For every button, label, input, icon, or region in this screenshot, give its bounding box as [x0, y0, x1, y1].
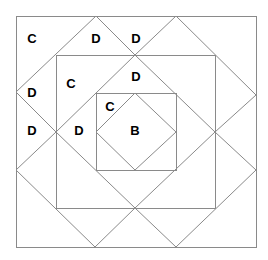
outer-edge-bot-left-in — [95, 208, 135, 247]
piece-label-d: D — [74, 123, 83, 138]
piece-label-d: D — [91, 31, 100, 46]
piece-label-c: C — [27, 31, 37, 46]
piece-label-b: B — [130, 123, 139, 138]
piece-label-c: C — [66, 76, 76, 91]
piece-label-c: C — [105, 99, 115, 114]
piece-label-d: D — [131, 69, 140, 84]
outer-edge-right-bot-in — [215, 132, 256, 170]
outer-edge-left-bot-in — [16, 132, 56, 170]
piece-label-d: D — [27, 123, 36, 138]
outer-edge-top-left-in — [96, 16, 135, 55]
piece-label-d: D — [131, 31, 140, 46]
quilt-diagram: CDDDCDCDDB — [0, 0, 268, 260]
outer-edge-top-right-in — [135, 16, 176, 55]
piece-labels: CDDDCDCDDB — [27, 31, 140, 138]
outer-edge-right-top-in — [215, 95, 256, 132]
outer-edge-bot-right-in — [135, 208, 176, 247]
piece-label-d: D — [27, 85, 36, 100]
